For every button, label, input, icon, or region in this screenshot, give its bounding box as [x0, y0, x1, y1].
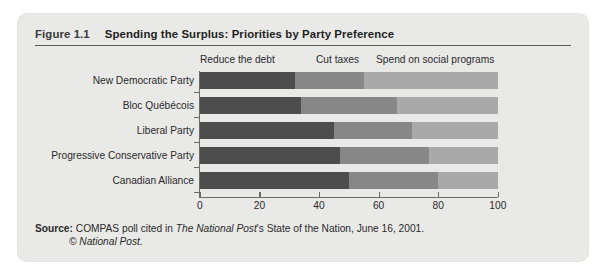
source-text-b: 's State of the Nation, June 16, 2001.: [257, 223, 424, 234]
x-axis-tick: [319, 192, 320, 197]
bar-segment: [200, 97, 301, 114]
x-axis-tick-label: 60: [373, 200, 384, 211]
figure-card: Figure 1.1 Spending the Surplus: Priorit…: [18, 14, 588, 261]
x-axis-tick-label: 40: [313, 200, 324, 211]
bar-row: [200, 97, 498, 114]
x-axis-tick-label: 100: [489, 200, 506, 211]
legend-label-spend-on-social-programs: Spend on social programs: [376, 54, 494, 65]
x-axis-tick-label: 80: [433, 200, 444, 211]
y-axis-tick: [194, 92, 199, 93]
x-axis-tick: [200, 192, 201, 197]
y-axis-tick: [194, 142, 199, 143]
x-axis-line: [199, 197, 498, 198]
x-axis-tick: [438, 192, 439, 197]
bar-segment: [200, 122, 334, 139]
source-publication: The National Post: [176, 223, 257, 234]
bar-segment: [200, 172, 349, 189]
category-label: Canadian Alliance: [24, 175, 194, 186]
bar-segment: [438, 172, 498, 189]
bar-segment: [200, 72, 295, 89]
bar-row: [200, 122, 498, 139]
category-label: New Democratic Party: [24, 75, 194, 86]
source-copyright: © National Post.: [69, 236, 143, 247]
bars-container: [200, 71, 498, 193]
source-note: Source: COMPAS poll cited in The Nationa…: [35, 222, 571, 248]
bar-segment: [429, 147, 498, 164]
source-label: Source:: [35, 223, 73, 234]
legend-label-cut-taxes: Cut taxes: [316, 54, 359, 65]
x-axis-tick-label: 20: [254, 200, 265, 211]
bar-row: [200, 172, 498, 189]
bar-segment: [200, 147, 340, 164]
bar-segment: [301, 97, 396, 114]
bar-segment: [334, 122, 411, 139]
y-axis-tick: [194, 167, 199, 168]
legend-label-reduce-the-debt: Reduce the debt: [200, 54, 275, 65]
category-label: Bloc Québécois: [24, 100, 194, 111]
category-label: Progressive Conservative Party: [24, 150, 194, 161]
bar-segment: [349, 172, 438, 189]
bar-row: [200, 147, 498, 164]
source-text-a: COMPAS poll cited in: [73, 223, 176, 234]
x-axis-tick: [498, 192, 499, 197]
category-axis-labels: New Democratic PartyBloc QuébécoisLibera…: [22, 71, 194, 193]
x-axis-tick: [379, 192, 380, 197]
bar-segment: [397, 97, 498, 114]
x-axis-tick-label: 0: [197, 200, 203, 211]
bar-segment: [295, 72, 364, 89]
bar-row: [200, 72, 498, 89]
bar-segment: [340, 147, 429, 164]
y-axis-tick: [194, 117, 199, 118]
y-axis-line: [199, 71, 200, 197]
y-axis-tick: [194, 192, 199, 193]
bar-segment: [364, 72, 498, 89]
category-label: Liberal Party: [24, 125, 194, 136]
x-axis-tick: [259, 192, 260, 197]
bar-segment: [412, 122, 498, 139]
